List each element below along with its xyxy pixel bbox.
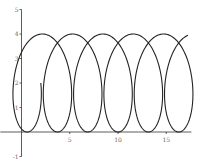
curve-series xyxy=(13,34,193,132)
x-tick-label: 15 xyxy=(162,136,170,143)
axes xyxy=(0,10,191,157)
y-tick-label: -1 xyxy=(13,153,19,160)
chart-plot: 51015-112345 xyxy=(0,0,203,163)
x-tick-label: 10 xyxy=(114,136,122,143)
x-tick-label: 5 xyxy=(68,136,72,143)
tick-labels: 51015-112345 xyxy=(13,6,171,160)
y-tick-label: 4 xyxy=(15,30,19,37)
y-tick-label: 2 xyxy=(15,79,19,86)
y-tick-label: 1 xyxy=(15,104,19,111)
y-tick-label: 3 xyxy=(15,55,19,62)
y-tick-label: 5 xyxy=(15,6,19,13)
